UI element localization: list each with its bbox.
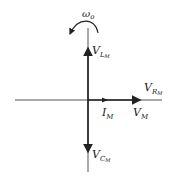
- vl-label: VLM: [92, 44, 111, 59]
- vm-label: VM: [133, 106, 149, 121]
- rotation-arrow-icon: [70, 21, 98, 34]
- vc-label: VCM: [92, 148, 111, 163]
- im-arrowhead-icon: [102, 98, 108, 103]
- omega-label: ωo: [82, 8, 94, 21]
- vr-label: VRM: [144, 81, 163, 96]
- phasor-diagram: ωo VLM VCM IM VM VRM: [0, 0, 171, 181]
- im-label: IM: [101, 106, 114, 121]
